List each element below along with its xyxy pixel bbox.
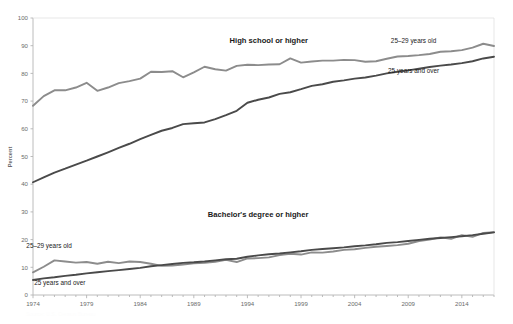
group-annotation-label: Bachelor's degree or higher [208, 210, 309, 219]
x-axis-tick-labels: 197419791984198919941999200420092014 [26, 295, 494, 307]
series-annotation-label: 25–29 years old [26, 242, 72, 250]
group-annotation-label: High school or higher [230, 36, 309, 45]
y-axis-tick-label: 10 [21, 264, 28, 271]
source-note: Source: U.S. Census Bureau [26, 311, 95, 317]
x-axis-tick-label: 1979 [80, 300, 94, 307]
plot-background [33, 18, 494, 295]
x-axis-tick-label: 1989 [187, 300, 201, 307]
chart-figure: Percent 0102030405060708090100 197419791… [0, 0, 513, 324]
y-axis-tick-labels: 0102030405060708090100 [18, 14, 33, 298]
y-axis-tick-label: 40 [21, 180, 28, 187]
y-axis-tick-label: 70 [21, 97, 28, 104]
x-axis-tick-label: 1984 [133, 300, 147, 307]
x-axis-tick-label: 2014 [455, 300, 469, 307]
series-annotation-label: 25 years and over [388, 67, 440, 75]
x-axis-tick-label: 1994 [241, 300, 255, 307]
series-annotation-label: 25 years and over [34, 279, 86, 287]
x-axis-tick-label: 1999 [294, 300, 308, 307]
series-annotation-label: 25–29 years old [391, 37, 437, 45]
educational-attainment-line-chart: Percent 0102030405060708090100 197419791… [0, 0, 513, 324]
x-axis-tick-label: 1974 [26, 300, 40, 307]
x-axis-tick-label: 2004 [348, 300, 362, 307]
y-axis-tick-label: 100 [18, 14, 29, 21]
y-axis-tick-label: 60 [21, 125, 28, 132]
y-axis-tick-label: 0 [25, 291, 29, 298]
y-axis-tick-label: 50 [21, 153, 28, 160]
y-axis-title-text: Percent [7, 147, 13, 168]
y-axis-tick-label: 80 [21, 70, 28, 77]
y-axis-tick-label: 30 [21, 208, 28, 215]
x-axis-tick-label: 2009 [401, 300, 415, 307]
y-axis-tick-label: 90 [21, 42, 28, 49]
y-axis-title: Percent [7, 147, 13, 168]
